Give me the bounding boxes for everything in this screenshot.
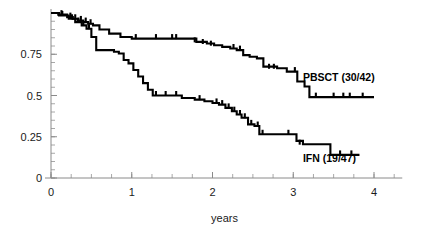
x-axis-title: years	[211, 212, 238, 224]
x-tick-label: 0	[48, 186, 54, 198]
x-tick-label: 3	[290, 186, 296, 198]
x-tick-label: 1	[129, 186, 135, 198]
kaplan-meier-figure: 01234 00.250.50.75 PBSCT (30/42) IFN (19…	[0, 0, 423, 233]
y-tick-label: 0.75	[21, 48, 42, 60]
axes-group: 01234 00.250.50.75	[21, 9, 403, 198]
survival-curve-ifn	[51, 13, 359, 155]
y-axis-tick-labels: 00.250.50.75	[21, 48, 42, 184]
y-axis-major-ticks	[51, 54, 57, 178]
y-tick-label: 0.25	[21, 131, 42, 143]
y-tick-label: 0	[36, 172, 42, 184]
series-label-pbsct: PBSCT (30/42)	[303, 71, 375, 83]
series-label-ifn: IFN (19/47)	[303, 152, 356, 164]
survival-plot-svg: 01234 00.250.50.75 PBSCT (30/42) IFN (19…	[0, 0, 423, 233]
survival-curve-pbsct	[51, 13, 374, 97]
y-tick-label: 0.5	[27, 90, 42, 102]
x-axis-major-ticks	[51, 172, 374, 178]
x-tick-label: 4	[371, 186, 377, 198]
x-tick-label: 2	[209, 186, 215, 198]
x-axis-tick-labels: 01234	[48, 186, 377, 198]
x-axis-minor-ticks	[51, 174, 394, 178]
censor-marks-pbsct	[61, 10, 362, 98]
